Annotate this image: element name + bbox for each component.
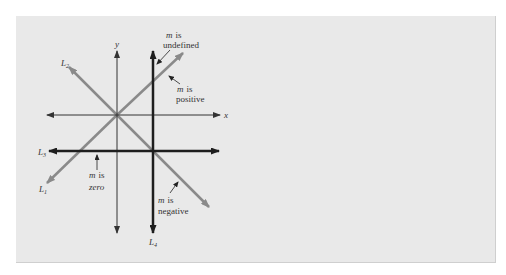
label-l2: L2 [60,58,69,69]
line-l1 [47,53,183,183]
label-l1: L1 [38,184,47,195]
svg-text:zero: zero [88,182,105,192]
pointer-undefined-arrow [157,50,170,64]
y-axis-label: y [114,39,119,49]
annotation-undefined: mis undefined [163,30,199,50]
pointer-negative-arrow [170,182,178,193]
x-axis-label: x [223,110,228,120]
label-l3: L3 [37,147,46,158]
annotation-negative: mis negative [158,195,189,216]
svg-text:positive: positive [176,94,205,104]
svg-text:mis: mis [166,30,182,40]
svg-text:undefined: undefined [163,40,199,50]
label-l4: L4 [148,237,157,248]
svg-text:mis: mis [89,170,105,180]
annotation-positive: mis positive [176,84,205,104]
svg-text:negative: negative [158,206,189,216]
pointer-positive-arrow [169,76,180,84]
svg-text:mis: mis [177,84,193,94]
svg-text:mis: mis [158,195,174,205]
annotation-zero: mis zero [88,170,105,192]
slope-diagram: y x L2 L3 L1 L4 mis undefined mis positi… [0,0,506,275]
